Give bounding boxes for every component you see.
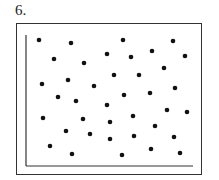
data-point bbox=[37, 38, 42, 43]
data-point bbox=[105, 103, 110, 108]
data-point bbox=[108, 137, 113, 142]
data-point bbox=[41, 116, 46, 121]
data-point bbox=[129, 55, 134, 60]
data-point bbox=[74, 99, 79, 104]
data-point bbox=[178, 151, 183, 156]
data-point bbox=[81, 117, 86, 122]
data-points bbox=[37, 38, 190, 158]
data-point bbox=[48, 144, 53, 149]
data-point bbox=[105, 52, 110, 57]
data-point bbox=[66, 78, 71, 83]
data-point bbox=[172, 135, 177, 140]
data-point bbox=[162, 66, 167, 71]
scatter-plot bbox=[0, 0, 219, 180]
data-point bbox=[132, 134, 137, 139]
data-point bbox=[173, 86, 178, 91]
data-point bbox=[131, 114, 136, 119]
data-point bbox=[153, 124, 158, 129]
data-point bbox=[112, 73, 117, 78]
data-point bbox=[121, 38, 126, 43]
data-point bbox=[122, 93, 127, 98]
data-point bbox=[171, 39, 176, 44]
data-point bbox=[165, 108, 170, 113]
data-point bbox=[108, 120, 113, 125]
data-point bbox=[69, 41, 74, 46]
data-point bbox=[120, 153, 125, 158]
data-point bbox=[148, 91, 153, 96]
data-point bbox=[40, 82, 45, 87]
data-point bbox=[82, 61, 87, 66]
data-point bbox=[70, 152, 75, 157]
data-point bbox=[52, 57, 57, 62]
data-point bbox=[185, 110, 190, 115]
data-point bbox=[149, 147, 154, 152]
data-point bbox=[64, 129, 69, 134]
data-point bbox=[150, 49, 155, 54]
data-point bbox=[183, 54, 188, 59]
data-point bbox=[137, 73, 142, 78]
data-point bbox=[56, 95, 61, 100]
data-point bbox=[88, 132, 93, 137]
data-point bbox=[92, 84, 97, 89]
